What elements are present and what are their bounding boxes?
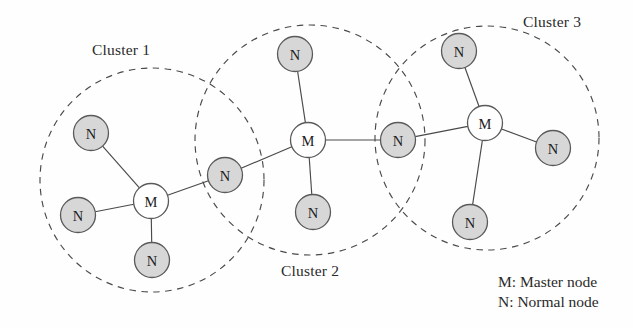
node-n1-normal[interactable]: N [74,116,109,151]
node-label: N [73,208,84,224]
link-n7-m3 [501,129,536,142]
node-label: N [220,168,231,184]
node-n2-normal[interactable]: N [61,198,96,233]
legend-normal-node: N: Normal node [498,292,599,312]
node-n4-normal[interactable]: N [278,37,313,72]
network-cluster-diagram: NNNMNNMNNNMNN Cluster 1Cluster 2Cluster … [0,0,634,329]
node-n5-normal[interactable]: N [296,195,331,230]
node-label: N [147,253,158,269]
node-label: M [145,194,158,210]
node-label: N [393,133,404,149]
node-label: N [465,215,476,231]
nodes-group: NNNMNNMNNNMNN [61,34,571,278]
node-n8-normal[interactable]: N [453,205,488,240]
legend-master-node: M: Master node [498,272,599,292]
node-label: N [86,126,97,142]
node-label: N [454,44,465,60]
link-g1-m2 [241,147,292,168]
node-m2-master[interactable]: M [291,123,326,158]
node-label: N [308,205,319,221]
link-n2-m1 [95,204,134,211]
label-cluster-2: Cluster 2 [281,262,339,280]
legend: M: Master node N: Normal node [498,272,599,312]
label-cluster-3: Cluster 3 [523,13,581,31]
node-g1-normal[interactable]: N [208,158,243,193]
link-n8-m3 [473,140,483,204]
node-n6-normal[interactable]: N [442,34,477,69]
cluster-boundaries-group [40,25,599,292]
node-label: M [479,116,492,132]
node-label: N [548,141,559,157]
label-cluster-1: Cluster 1 [92,41,150,59]
link-m1-g1 [168,181,209,195]
link-n4-m2 [298,71,306,122]
link-g2-m3 [415,126,468,136]
node-label: M [302,133,315,149]
link-n5-m2 [309,157,312,194]
node-g2-normal[interactable]: N [381,123,416,158]
node-m3-master[interactable]: M [468,106,503,141]
node-m1-master[interactable]: M [134,184,169,219]
node-n3-normal[interactable]: N [135,243,170,278]
node-label: N [290,47,301,63]
link-n1-m1 [103,146,140,188]
link-n6-m3 [465,67,479,106]
node-n7-normal[interactable]: N [536,131,571,166]
